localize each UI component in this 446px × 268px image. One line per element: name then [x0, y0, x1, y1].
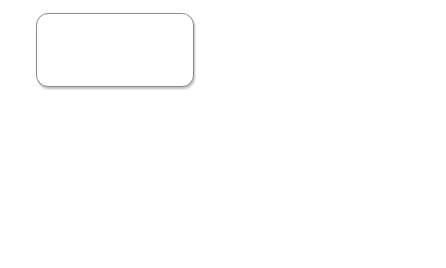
annual-cycle-panel: [36, 13, 194, 87]
